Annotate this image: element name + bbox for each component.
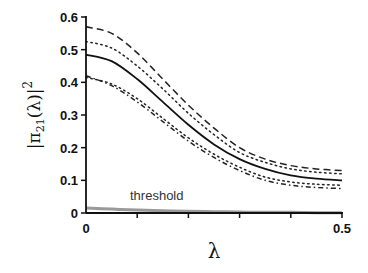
y-tick-label: 0.5 <box>60 43 78 58</box>
series-lower-dash-dot <box>86 76 342 189</box>
x-axis-label: λ <box>208 239 221 263</box>
svg-text:|π21(λ)|2: |π21(λ)|2 <box>21 81 47 149</box>
y-tick-label: 0.2 <box>60 141 78 156</box>
y-tick-label: 0.4 <box>60 75 79 90</box>
y-tick-label: 0 <box>71 206 78 221</box>
y-tick-label: 0.3 <box>60 108 78 123</box>
line-chart: 00.10.20.30.40.50.600.5 λ |π21(λ)|2 thre… <box>0 0 368 273</box>
series-mean <box>86 55 342 181</box>
y-tick-label: 0.6 <box>60 10 78 25</box>
y-axis-label: |π21(λ)|2 <box>21 81 47 149</box>
series-upper-dashed <box>86 27 342 171</box>
axes: 00.10.20.30.40.50.600.5 <box>60 10 351 236</box>
series-layer <box>86 27 342 213</box>
series-threshold <box>86 208 342 213</box>
x-tick-label: 0.5 <box>333 221 351 236</box>
x-tick-label: 0 <box>82 221 89 236</box>
y-tick-label: 0.1 <box>60 173 78 188</box>
series-lower-dotted <box>86 77 342 185</box>
threshold-annotation: threshold <box>130 188 183 203</box>
